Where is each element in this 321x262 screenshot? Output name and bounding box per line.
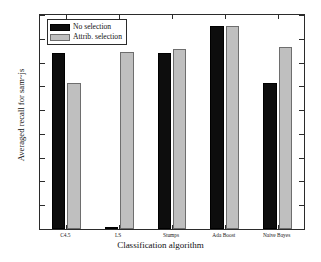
bar-ls-no-selection: [105, 227, 118, 229]
y-tick: [40, 134, 45, 135]
y-tick: [40, 181, 45, 182]
y-tick: [299, 63, 304, 64]
legend-item-no-selection: No selection: [50, 22, 122, 32]
bar-chart-figure: No selection Attrib. selection 00.10.20.…: [0, 0, 321, 262]
y-tick: [40, 205, 45, 206]
x-tick-label: Naive Bayes: [263, 232, 290, 238]
x-tick-label: Stumps: [163, 232, 179, 238]
y-tick: [299, 15, 304, 16]
x-tick-label: Ada Boost: [212, 232, 235, 238]
bar-c4-5-attrib-selection: [67, 83, 80, 229]
bar-ada-boost-attrib-selection: [226, 26, 239, 229]
y-tick: [40, 39, 45, 40]
bar-stumps-attrib-selection: [173, 49, 186, 229]
legend-swatch-attrib-selection: [50, 34, 70, 41]
y-tick: [299, 39, 304, 40]
y-tick: [40, 86, 45, 87]
bar-ada-boost-no-selection: [210, 26, 223, 229]
y-tick: [40, 229, 45, 230]
y-tick: [299, 229, 304, 230]
y-axis-title: Averaged recall for sam~js: [16, 25, 26, 205]
legend-swatch-no-selection: [50, 24, 70, 31]
x-tick: [225, 15, 226, 19]
bar-c4-5-no-selection: [52, 53, 65, 229]
bar-naive-bayes-no-selection: [263, 83, 276, 229]
y-tick: [299, 205, 304, 206]
legend-label-no-selection: No selection: [73, 23, 111, 31]
x-tick-label: C4.5: [60, 232, 70, 238]
y-tick: [299, 158, 304, 159]
y-tick: [299, 110, 304, 111]
bar-ls-attrib-selection: [120, 52, 133, 229]
x-tick: [172, 15, 173, 19]
y-tick: [299, 134, 304, 135]
legend-item-attrib-selection: Attrib. selection: [50, 32, 122, 42]
bar-stumps-no-selection: [158, 53, 171, 229]
x-tick: [278, 15, 279, 19]
y-tick: [40, 110, 45, 111]
bar-naive-bayes-attrib-selection: [279, 47, 292, 229]
y-tick: [40, 158, 45, 159]
y-tick: [299, 181, 304, 182]
chart-legend: No selection Attrib. selection: [47, 19, 127, 45]
x-axis-title: Classification algorithm: [0, 240, 321, 250]
legend-label-attrib-selection: Attrib. selection: [73, 33, 122, 41]
y-tick: [40, 63, 45, 64]
x-tick-label: LS: [115, 232, 121, 238]
y-tick: [40, 15, 45, 16]
y-tick: [299, 86, 304, 87]
plot-area: No selection Attrib. selection: [39, 14, 305, 230]
